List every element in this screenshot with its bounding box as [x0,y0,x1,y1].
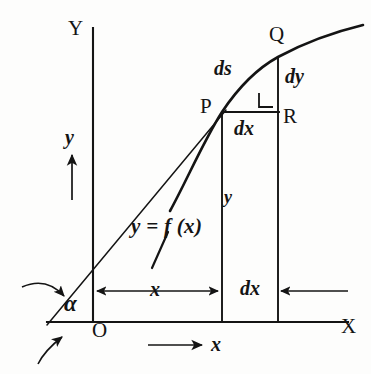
point-r-label: R [283,106,297,127]
y-direction-label: y [65,127,74,147]
ordinate-label: y [224,188,232,206]
abscissa-label: x [150,279,160,299]
callout-arrow-lower [38,337,62,364]
dx-lower-label: dx [240,278,260,298]
x-direction-label: x [211,334,221,354]
curve-equation-label: y = f (x) [131,216,202,237]
arc-length-label: ds [214,58,232,78]
dx-upper-label: dx [234,118,254,138]
origin-label: O [92,320,107,341]
y-axis-label: Y [68,18,83,39]
diagram-canvas [0,0,371,374]
callout-arrow-upper [22,283,64,296]
right-angle-marker [259,93,273,107]
function-curve [170,25,363,211]
point-q-label: Q [269,24,284,45]
angle-alpha-label: α [64,292,77,315]
figure-diagram: Y X O y x P Q R ds dx dy dx y x y = f (x… [0,0,371,374]
x-axis-label: X [341,316,356,337]
point-p-label: P [200,96,212,117]
dy-label: dy [285,66,304,86]
